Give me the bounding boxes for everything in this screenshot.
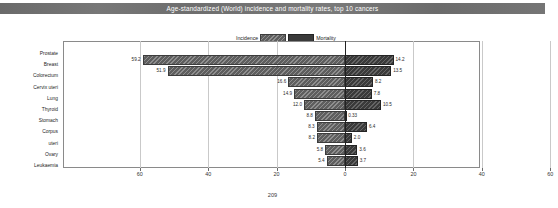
bar-row: 5.83.6: [63, 145, 480, 156]
category-label-stomach: Stomach: [0, 117, 58, 125]
x-axis-tick-label: 40: [196, 171, 220, 177]
x-axis-tick-label: 0: [333, 171, 357, 177]
bar-incidence[interactable]: [304, 100, 345, 110]
bar-value-mortality: 6.4: [369, 122, 391, 132]
bar-incidence[interactable]: [327, 156, 345, 166]
bar-value-mortality: 2.0: [354, 133, 376, 143]
bar-row: 16.68.2: [63, 77, 480, 88]
category-label-thyroid: Thyroid: [0, 106, 58, 114]
bar-mortality[interactable]: [345, 55, 394, 65]
bar-incidence[interactable]: [315, 111, 345, 121]
category-label-colorectum: Colorectum: [0, 72, 58, 80]
bar-incidence[interactable]: [317, 133, 345, 143]
bar-value-incidence: 5.4: [303, 156, 325, 166]
bar-value-mortality: 8.2: [375, 77, 397, 87]
bar-incidence[interactable]: [168, 66, 345, 76]
x-axis-tick-label: 60: [128, 171, 152, 177]
category-label-ovary: Ovary: [0, 151, 58, 159]
bar-value-incidence: 51.9: [144, 66, 166, 76]
category-label-leukaemia: Leukaemia: [0, 162, 58, 170]
category-label-breast: Breast: [0, 61, 58, 69]
bar-value-incidence: 12.0: [280, 100, 302, 110]
x-axis-tick-label: 20: [265, 171, 289, 177]
bar-mortality[interactable]: [345, 89, 372, 99]
bar-row: 51.913.5: [63, 66, 480, 77]
bar-value-mortality: 0.33: [348, 111, 370, 121]
x-axis: 6040200204060: [63, 168, 480, 182]
gridline: [550, 41, 551, 168]
bar-value-incidence: 8.8: [291, 111, 313, 121]
legend-item-incidence-label: Incidence: [236, 35, 258, 41]
bar-value-mortality: 3.7: [360, 156, 382, 166]
gridline: [482, 41, 483, 168]
bar-value-incidence: 5.8: [301, 145, 323, 155]
bar-incidence[interactable]: [143, 55, 345, 65]
bar-row: 8.36.4: [63, 122, 480, 133]
legend-item-mortality-label: Mortality: [316, 35, 336, 41]
category-label-cervix-uteri: Cervix uteri: [0, 84, 58, 92]
bar-mortality[interactable]: [345, 66, 391, 76]
bar-mortality[interactable]: [345, 77, 373, 87]
bar-value-incidence: 59.2: [119, 55, 141, 65]
bar-incidence[interactable]: [288, 77, 345, 87]
page-number: 209: [0, 192, 545, 198]
bar-incidence[interactable]: [294, 89, 345, 99]
bar-value-incidence: 8.3: [293, 122, 315, 132]
bar-mortality[interactable]: [345, 156, 358, 166]
category-axis-labels: ProstateBreastColorectumCervix uteriLung…: [0, 41, 61, 168]
bar-row: 12.010.5: [63, 100, 480, 111]
bar-mortality[interactable]: [345, 133, 352, 143]
bar-value-incidence: 16.6: [264, 77, 286, 87]
bar-value-incidence: 14.9: [270, 89, 292, 99]
bar-incidence[interactable]: [317, 122, 345, 132]
category-label-corpus-uteri: Corpus: [0, 128, 58, 136]
bar-row: 14.97.8: [63, 89, 480, 100]
bar-mortality[interactable]: [345, 100, 381, 110]
bar-mortality[interactable]: [345, 122, 367, 132]
category-label-prostate: Prostate: [0, 50, 58, 58]
bar-value-mortality: 7.8: [374, 89, 396, 99]
x-axis-tick-label: 60: [538, 171, 558, 177]
bar-value-mortality: 13.5: [393, 66, 415, 76]
x-axis-tick-label: 20: [401, 171, 425, 177]
bar-value-mortality: 10.5: [383, 100, 405, 110]
bar-row: 59.214.2: [63, 55, 480, 66]
bar-row: 8.22.0: [63, 133, 480, 144]
bar-row: 5.43.7: [63, 156, 480, 167]
page-title: Age-standardized (World) incidence and m…: [0, 3, 545, 14]
bar-mortality[interactable]: [345, 145, 357, 155]
zero-axis-line: [345, 41, 346, 168]
title-banner: Age-standardized (World) incidence and m…: [0, 3, 545, 14]
chart-plot-area: 59.214.251.913.516.68.214.97.812.010.58.…: [63, 41, 480, 168]
bar-row: 8.80.33: [63, 111, 480, 122]
x-axis-tick-label: 40: [470, 171, 494, 177]
category-label-corpus-uteri: uteri: [0, 140, 58, 148]
bar-value-incidence: 8.2: [293, 133, 315, 143]
category-label-lung: Lung: [0, 95, 58, 103]
bar-value-mortality: 14.2: [396, 55, 418, 65]
bar-value-mortality: 3.6: [359, 145, 381, 155]
bar-incidence[interactable]: [325, 145, 345, 155]
